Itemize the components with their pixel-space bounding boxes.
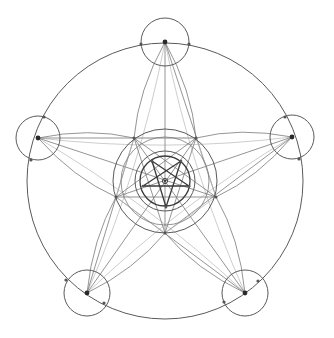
pentagram-construction-canvas [0, 0, 334, 338]
intersection-point [64, 278, 67, 281]
intersection-point [42, 115, 45, 118]
intersection-point [164, 232, 167, 235]
petal-arc [38, 133, 134, 138]
petal-arc [87, 233, 165, 293]
petal-arc [38, 138, 116, 197]
inner-point [188, 185, 191, 188]
intersection-point [256, 279, 259, 282]
intersection-point [102, 301, 105, 304]
inner-point [180, 160, 183, 163]
inner-point [165, 206, 168, 209]
intersection-point [283, 115, 286, 118]
intersection-point [139, 42, 142, 45]
center-point [164, 180, 166, 182]
vertex-point [36, 136, 41, 141]
intersection-point [29, 158, 32, 161]
intersection-point [222, 300, 225, 303]
petal-arc [216, 197, 245, 293]
intersection-point [133, 137, 136, 140]
geometric-drawing [0, 0, 334, 338]
vertex-point [163, 40, 168, 45]
intersection-point [297, 157, 300, 160]
vertex-point [243, 291, 248, 296]
inner-point [151, 160, 154, 163]
intersection-point [195, 137, 198, 140]
vertex-point [85, 291, 90, 296]
inner-point [142, 185, 145, 188]
intersection-point [187, 42, 190, 45]
vertex-point [290, 135, 295, 140]
construction-line [165, 137, 292, 233]
intersection-point [215, 196, 218, 199]
petal-arc [134, 42, 165, 138]
intersection-point [115, 196, 118, 199]
petal-arc [196, 132, 292, 138]
